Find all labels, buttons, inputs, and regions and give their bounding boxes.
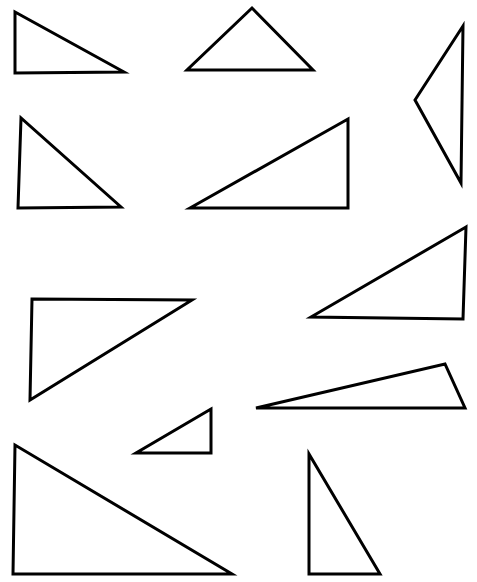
triangle-7 (30, 299, 192, 400)
triangle-6 (311, 227, 466, 319)
triangle-1 (15, 12, 124, 73)
triangle-3 (415, 26, 463, 183)
triangle-9 (136, 409, 211, 453)
triangle-5 (190, 119, 348, 208)
triangle-11 (309, 454, 380, 574)
triangle-8 (256, 364, 465, 408)
triangle-4 (18, 118, 121, 208)
triangle-2 (187, 8, 313, 70)
triangle-10 (13, 445, 232, 574)
triangle-diagram (0, 0, 477, 582)
